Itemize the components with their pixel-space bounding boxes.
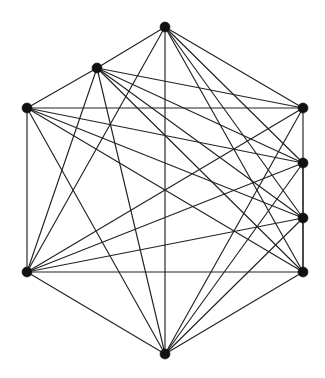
graph-edge bbox=[165, 27, 303, 108]
graph-edge bbox=[165, 27, 303, 218]
graph-edge bbox=[165, 272, 303, 354]
graph-node[interactable] bbox=[160, 349, 170, 359]
graph-figure bbox=[0, 0, 325, 378]
graph-edge bbox=[165, 163, 303, 354]
graph-node[interactable] bbox=[92, 63, 102, 73]
graph-node[interactable] bbox=[298, 213, 308, 223]
graph-node[interactable] bbox=[22, 267, 32, 277]
graph-edge bbox=[97, 68, 303, 272]
graph-edge bbox=[97, 68, 303, 108]
graph-edge bbox=[27, 68, 97, 108]
graph-edge bbox=[97, 68, 165, 354]
graph-edge bbox=[165, 218, 303, 354]
graph-edge bbox=[27, 272, 165, 354]
graph-node[interactable] bbox=[160, 22, 170, 32]
graph-node[interactable] bbox=[298, 158, 308, 168]
edge-layer bbox=[27, 27, 303, 354]
graph-edge bbox=[97, 27, 165, 68]
graph-node[interactable] bbox=[298, 103, 308, 113]
graph-canvas bbox=[0, 0, 325, 378]
graph-node[interactable] bbox=[22, 103, 32, 113]
graph-node[interactable] bbox=[298, 267, 308, 277]
